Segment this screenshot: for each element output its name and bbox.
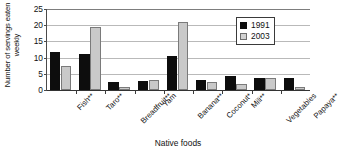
significance-marker: ** [214,91,224,101]
bar-1991 [79,54,90,90]
bar-1991 [254,78,265,90]
legend: 1991 2003 [236,17,275,45]
legend-item-1991: 1991 [240,20,270,31]
bar-1991 [108,82,119,90]
bar-group [281,9,310,90]
significance-marker: ** [258,91,268,101]
bar-group [47,9,76,90]
x-axis-category-labels: Fish**Taro**Breadfruit**YamBanana**Cocon… [46,92,310,136]
bar-1991 [167,56,178,90]
significance-marker: * [245,91,253,99]
bar-2003 [149,80,160,90]
bar-group [164,9,193,90]
bar-group [105,9,134,90]
significance-marker: ** [115,91,125,101]
y-tick-label: 20 [34,21,43,29]
y-axis-title: Number of servings eaten weekly [3,0,29,97]
bar-1991 [138,81,149,90]
legend-swatch-2003-icon [240,33,247,40]
bar-2003 [236,84,247,90]
bar-group [76,9,105,90]
legend-label-1991: 1991 [251,21,270,29]
x-category-label: Banana** [196,92,225,121]
y-tick-label: 15 [34,37,43,45]
legend-label-2003: 2003 [251,32,270,40]
y-tick-label: 10 [34,53,43,61]
bar-1991 [284,78,295,90]
y-tick-label: 25 [34,5,43,13]
legend-swatch-1991-icon [240,22,247,29]
bar-2003 [178,22,189,90]
x-axis-title: Native foods [46,138,310,148]
bar-2003 [295,87,306,90]
bar-2003 [61,66,72,90]
bar-2003 [265,78,276,90]
x-category-label: Coconut* [225,92,254,121]
y-tick-mark [44,90,47,91]
bar-group [135,9,164,90]
significance-marker: ** [331,91,341,101]
significance-marker: ** [85,91,95,101]
bar-1991 [50,52,61,90]
y-tick-label: 0 [38,86,43,94]
bar-1991 [225,76,236,90]
bar-1991 [196,80,207,90]
y-tick-label: 5 [38,70,43,78]
x-category-label: Taro** [105,92,126,113]
bar-2003 [90,27,101,90]
bar-2003 [119,87,130,90]
bar-2003 [207,82,218,90]
x-category-label: Mili** [250,92,268,110]
x-category-label: Vegetables [285,92,318,125]
bar-group [193,9,222,90]
x-category-label: Fish** [76,92,96,112]
legend-item-2003: 2003 [240,31,270,42]
